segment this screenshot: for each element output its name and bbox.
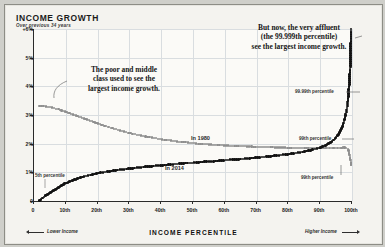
y-axis-tick-label: +6% [11, 26, 33, 32]
marker-99th-percentile-upper: 99th percentile [299, 136, 331, 141]
higher-income-arrow [342, 232, 357, 233]
x-axis-tick [33, 201, 34, 204]
x-axis-tick [351, 201, 352, 204]
y-axis-tick-label: 2% [11, 141, 33, 147]
x-axis-tick [160, 201, 161, 204]
lower-income-arrowhead [26, 230, 29, 234]
callout-right: But now, the very affluent (the 99.999th… [229, 23, 369, 51]
page-title: INCOME GROWTH [16, 13, 99, 23]
lower-income-label: Lower Income [47, 229, 78, 234]
x-axis-tick-label: 0 [32, 207, 35, 213]
x-axis-tick-label: 70th [250, 207, 261, 213]
higher-income-label: Higher Income [305, 229, 337, 234]
y-axis-tick-label: 0 [11, 198, 33, 204]
marker-99th-percentile-lower: 99th percentile [301, 175, 333, 180]
callout-left: The poor and middle class used to see th… [65, 65, 183, 93]
x-axis-tick-label: 100th [344, 207, 358, 213]
x-axis-tick-label: 30th [123, 207, 134, 213]
x-axis-tick-label: 50th [187, 207, 198, 213]
x-axis-tick [287, 201, 288, 204]
gridline-horizontal [34, 58, 352, 59]
y-axis-tick-label: 5% [11, 55, 33, 61]
x-axis-tick-label: 10th [59, 207, 70, 213]
x-axis-tick [256, 201, 257, 204]
y-axis-tick-label: 3% [11, 112, 33, 118]
y-axis-tick-label: 4% [11, 83, 33, 89]
x-axis-tick-label: 80th [282, 207, 293, 213]
x-axis-tick [192, 201, 193, 204]
gridline-horizontal [34, 172, 352, 173]
x-axis-tick [128, 201, 129, 204]
y-axis-tick-label: 1% [11, 169, 33, 175]
chart-card: INCOME GROWTH Over previous 34 years 010… [4, 4, 383, 245]
x-axis-tick-label: 20th [91, 207, 102, 213]
series-label-1980: In 1980 [191, 135, 210, 141]
x-axis-tick [319, 201, 320, 204]
screenshot-root: INCOME GROWTH Over previous 34 years 010… [0, 0, 385, 247]
higher-income-arrowhead [357, 230, 360, 234]
lower-income-arrow [29, 232, 44, 233]
series-label-2014: In 2014 [165, 165, 184, 171]
x-axis-tick-label: 60th [218, 207, 229, 213]
x-axis-tick-label: 40th [155, 207, 166, 213]
marker-9999th-percentile: 99.99th percentile [295, 89, 334, 94]
x-axis-tick [65, 201, 66, 204]
x-axis-tick [97, 201, 98, 204]
x-axis-tick [224, 201, 225, 204]
marker-5th-percentile: 5th percentile [35, 173, 65, 178]
x-axis-tick-label: 90th [314, 207, 325, 213]
gridline-vertical [352, 29, 353, 201]
